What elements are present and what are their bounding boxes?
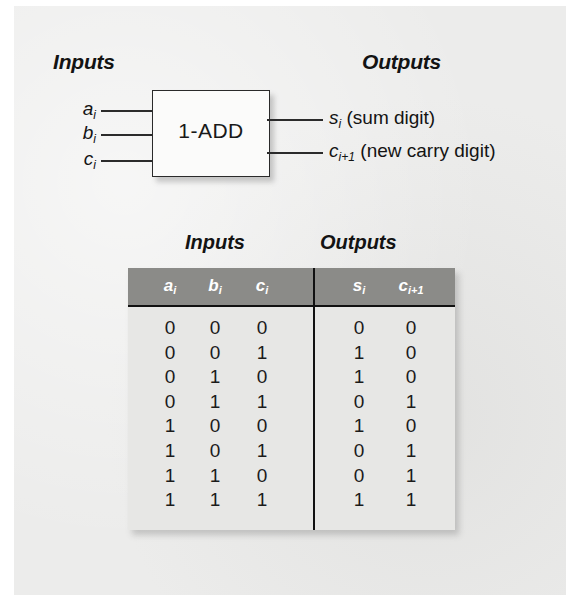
table-cell-cout: 0 [386,342,436,364]
truth-table-captions: Inputs Outputs [0,231,588,263]
table-cell-b: 0 [190,342,240,364]
table-header-a: ai [145,276,195,296]
table-header-b-symbol: b [208,276,218,295]
table-cell-cout: 1 [386,465,436,487]
output-label-carry-description: (new carry digit) [360,140,495,161]
truth-table: aibicisici+1 000000011001010011011001010… [128,268,455,530]
table-cell-b: 0 [190,317,240,339]
output-label-sum-description: (sum digit) [346,107,435,128]
input-label-c-symbol: c [84,148,94,169]
input-label-a: ai [68,98,96,120]
table-cell-s: 0 [334,391,384,413]
table-caption-inputs: Inputs [185,231,245,254]
input-label-b-subscript: i [93,132,96,146]
table-header-c-symbol: c [256,276,265,295]
table-cell-s: 0 [334,440,384,462]
table-cell-c: 1 [237,342,287,364]
table-header-cout-subscript: i+1 [408,284,423,296]
input-label-c-subscript: i [93,158,96,172]
table-cell-c: 0 [237,415,287,437]
table-header-cout: ci+1 [386,276,436,296]
table-cell-s: 0 [334,465,384,487]
table-cell-a: 1 [145,489,195,511]
input-wire-b [101,134,153,136]
table-cell-a: 1 [145,465,195,487]
output-label-carry-subscript: i+1 [339,150,356,164]
table-section-divider [313,268,315,530]
adder-block: 1-ADD [152,90,270,177]
table-cell-a: 0 [145,366,195,388]
figure-page: Inputs Outputs ai bi ci 1-ADD si (sum di… [0,0,588,601]
diagram-outputs-heading: Outputs [362,50,441,74]
table-cell-s: 1 [334,489,384,511]
table-cell-c: 0 [237,366,287,388]
table-header-c: ci [237,276,287,296]
table-cell-c: 1 [237,489,287,511]
table-cell-b: 1 [190,465,240,487]
table-header-s: si [334,276,384,296]
input-label-b-symbol: b [83,122,94,143]
input-label-b: bi [68,122,96,144]
input-label-a-subscript: i [93,108,96,122]
table-cell-cout: 1 [386,440,436,462]
output-label-sum: si (sum digit) [329,107,435,129]
table-header-cout-symbol: c [399,276,408,295]
table-header-s-subscript: i [362,284,365,296]
table-cell-a: 1 [145,415,195,437]
table-header-b-subscript: i [219,284,222,296]
diagram-inputs-heading: Inputs [53,50,115,74]
table-cell-b: 0 [190,440,240,462]
table-cell-b: 0 [190,415,240,437]
table-cell-b: 1 [190,366,240,388]
table-cell-a: 1 [145,440,195,462]
input-wire-a [101,110,153,112]
block-diagram: Inputs Outputs ai bi ci 1-ADD si (sum di… [0,0,588,215]
table-cell-a: 0 [145,317,195,339]
table-caption-outputs: Outputs [320,231,397,254]
table-cell-c: 1 [237,391,287,413]
table-header-s-symbol: s [353,276,362,295]
output-label-carry: ci+1 (new carry digit) [329,140,496,162]
table-cell-cout: 1 [386,391,436,413]
table-cell-cout: 0 [386,415,436,437]
table-cell-cout: 1 [386,489,436,511]
table-header-a-subscript: i [173,284,176,296]
table-cell-s: 1 [334,415,384,437]
table-cell-c: 1 [237,440,287,462]
table-cell-a: 0 [145,342,195,364]
table-cell-cout: 0 [386,366,436,388]
table-cell-c: 0 [237,465,287,487]
table-cell-b: 1 [190,391,240,413]
table-cell-s: 1 [334,342,384,364]
table-cell-s: 1 [334,366,384,388]
table-cell-s: 0 [334,317,384,339]
table-header-c-subscript: i [265,284,268,296]
table-header-b: bi [190,276,240,296]
table-header-a-symbol: a [164,276,173,295]
table-cell-a: 0 [145,391,195,413]
output-label-sum-subscript: i [339,117,342,131]
output-label-carry-symbol: c [329,140,339,161]
input-label-c: ci [68,148,96,170]
table-cell-cout: 0 [386,317,436,339]
truth-table-header-row: aibicisici+1 [128,268,455,307]
output-wire-sum [267,119,323,121]
input-wire-c [101,160,153,162]
output-label-sum-symbol: s [329,107,339,128]
input-label-a-symbol: a [83,98,94,119]
table-cell-c: 0 [237,317,287,339]
table-cell-b: 1 [190,489,240,511]
adder-block-label: 1-ADD [153,119,269,143]
output-wire-carry [267,152,323,154]
truth-table-body: 0000000110010100110110010101011100111111 [128,305,455,530]
